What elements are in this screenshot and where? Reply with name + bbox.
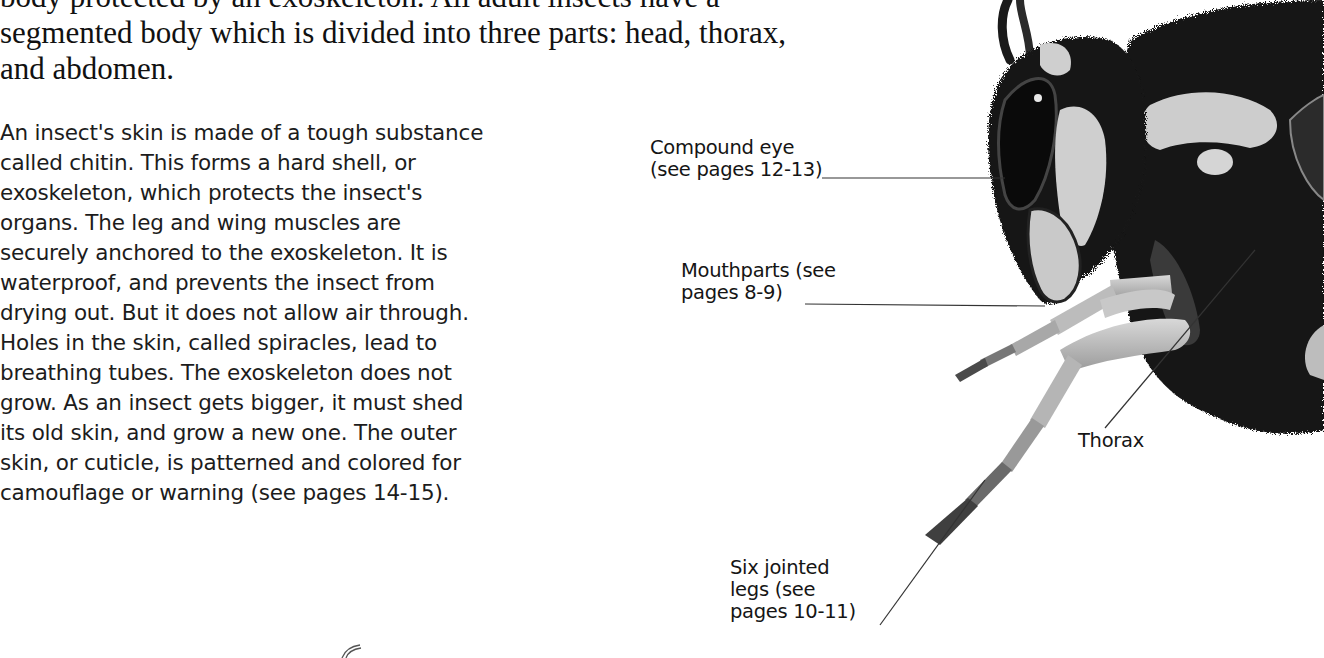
body-line: camouflage or warning (see pages 14-15). — [0, 478, 470, 508]
label-thorax: Thorax — [1078, 430, 1144, 452]
body-line: securely anchored to the exoskeleton. It… — [0, 238, 470, 268]
label-compound-eye: Compound eye (see pages 12-13) — [650, 137, 822, 181]
antenna-icon — [1002, 0, 1030, 60]
label-mouthparts: Mouthparts (see pages 8-9) — [681, 260, 836, 304]
label-line: pages 10-11) — [730, 601, 856, 623]
intro-line: body protected by an exoskeleton. All ad… — [0, 0, 740, 15]
label-line: legs (see — [730, 579, 856, 601]
leader-line-legs — [880, 480, 985, 625]
thorax-shape — [1106, 0, 1324, 434]
body-line: skin, or cuticle, is patterned and color… — [0, 448, 470, 478]
eye-highlight — [1034, 94, 1042, 102]
body-line: grow. As an insect gets bigger, it must … — [0, 388, 470, 418]
body-line: Holes in the skin, called spiracles, lea… — [0, 328, 470, 358]
body-line: called chitin. This forms a hard shell, … — [0, 148, 470, 178]
leader-line-mouthparts — [805, 304, 1045, 306]
label-line: pages 8-9) — [681, 282, 836, 304]
intro-line: segmented body which is divided into thr… — [0, 15, 740, 51]
intro-paragraph: body protected by an exoskeleton. All ad… — [0, 0, 740, 87]
label-line: Six jointed — [730, 557, 856, 579]
label-line: Mouthparts (see — [681, 260, 836, 282]
thorax-spot — [1197, 149, 1233, 175]
body-line: its old skin, and grow a new one. The ou… — [0, 418, 470, 448]
intro-line: and abdomen. — [0, 51, 740, 87]
body-paragraph: An insect's skin is made of a tough subs… — [0, 118, 470, 508]
body-line: waterproof, and prevents the insect from — [0, 268, 470, 298]
body-line: organs. The leg and wing muscles are — [0, 208, 470, 238]
label-line: (see pages 12-13) — [650, 159, 822, 181]
body-line: An insect's skin is made of a tough subs… — [0, 118, 470, 148]
label-line: Compound eye — [650, 137, 822, 159]
body-line: breathing tubes. The exoskeleton does no… — [0, 358, 470, 388]
label-legs: Six jointed legs (see pages 10-11) — [730, 557, 856, 623]
sketch-mark — [342, 645, 361, 658]
label-line: Thorax — [1078, 430, 1144, 452]
body-line: drying out. But it does not allow air th… — [0, 298, 470, 328]
body-line: exoskeleton, which protects the insect's — [0, 178, 470, 208]
